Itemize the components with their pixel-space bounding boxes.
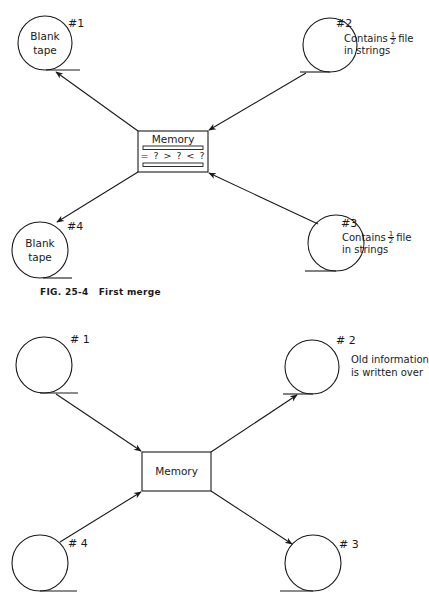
fraction-half: 12: [390, 32, 396, 45]
bottom-figure: [12, 337, 341, 591]
figure-number: FIG. 25-4: [40, 287, 89, 297]
figure-title: First merge: [99, 287, 161, 297]
tape-4-id-bottom: # 4: [68, 537, 88, 550]
memory-label-top: Memory: [138, 133, 208, 145]
tape-3-id-bottom: # 3: [339, 538, 359, 551]
arrow-tape3-to-memory: [209, 173, 318, 224]
tape-2-note-bottom-line1: Old information: [351, 353, 429, 366]
memory-comparison: = ? > ? < ?: [138, 150, 208, 161]
figure-caption: FIG. 25-4First merge: [40, 287, 161, 297]
arrow-tape1-to-memory: [56, 394, 141, 451]
arrow-memory-to-tape1: [56, 72, 138, 131]
fraction-denominator: 2: [388, 238, 394, 244]
arrow-memory-to-tape2: [211, 395, 297, 452]
tape-3-note: Contains12file in strings: [342, 231, 412, 256]
tape-4-content: Blank tape: [15, 236, 65, 264]
arrow-memory-to-tape3: [211, 491, 292, 544]
tape-2-note-line1: Contains12file: [344, 32, 414, 45]
arrow-tape2-to-memory: [209, 73, 306, 130]
tape-1-inner-line1: Blank: [20, 29, 70, 43]
tape-2-note: Contains12file in strings: [344, 32, 414, 57]
tape-3-note-line2: in strings: [342, 244, 412, 256]
tape-3-note-line1: Contains12file: [342, 231, 412, 244]
tape-4-id: #4: [67, 220, 83, 233]
tape-2-note-bottom: Old information is written over: [351, 353, 429, 379]
tape-1-content: Blank tape: [20, 29, 70, 57]
arrow-memory-to-tape4: [57, 172, 138, 222]
fraction-half: 12: [388, 231, 394, 244]
tape-3-note-suffix: file: [396, 232, 411, 243]
tape-2-id: #2: [336, 17, 352, 30]
tape-1-inner-line2: tape: [20, 43, 70, 57]
tape-4-inner-line2: tape: [15, 250, 65, 264]
tape-1-id: #1: [68, 17, 84, 30]
tape-2-id-bottom: # 2: [336, 334, 356, 347]
tape-1-reel-icon-bottom: [16, 337, 78, 393]
tape-3-id: #3: [341, 217, 357, 230]
tape-1-id-bottom: # 1: [70, 333, 90, 346]
tape-2-note-suffix: file: [398, 33, 413, 44]
tape-3-reel-icon-bottom: [280, 535, 341, 591]
tape-2-reel-icon-bottom: [283, 340, 339, 394]
tape-3-note-prefix: Contains: [342, 232, 386, 243]
memory-label-bottom: Memory: [142, 465, 211, 477]
tape-4-inner-line1: Blank: [15, 236, 65, 250]
tape-2-note-line2: in strings: [344, 45, 414, 57]
fraction-denominator: 2: [390, 39, 396, 45]
tape-2-note-prefix: Contains: [344, 33, 388, 44]
tape-2-note-bottom-line2: is written over: [351, 366, 429, 379]
arrow-tape4-to-memory: [60, 492, 141, 542]
